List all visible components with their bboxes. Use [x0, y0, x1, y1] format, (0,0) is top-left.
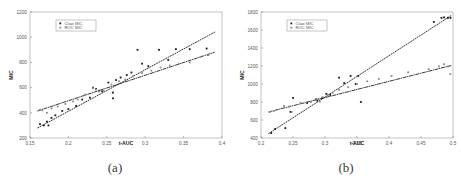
legend-marker	[290, 23, 292, 25]
y-tick-label: 1800	[248, 10, 259, 15]
panel-caption-a: (a)	[0, 160, 230, 176]
data-point	[343, 82, 345, 84]
data-point	[101, 90, 103, 92]
data-point	[141, 63, 143, 65]
x-tick-label: 0.15	[26, 141, 35, 146]
data-point	[51, 107, 53, 109]
data-point	[167, 59, 169, 61]
data-point	[407, 71, 409, 73]
data-point	[147, 65, 149, 67]
data-point	[46, 112, 48, 114]
data-point	[68, 108, 70, 110]
data-point	[350, 75, 352, 77]
data-point	[273, 110, 275, 112]
y-tick-label: 200	[19, 136, 27, 141]
data-point	[132, 75, 134, 77]
data-point	[338, 77, 340, 79]
legend-marker	[59, 23, 61, 25]
data-point	[207, 54, 209, 56]
data-point	[75, 105, 77, 107]
data-point	[360, 101, 362, 103]
figure-container: 200400600800100012000.150.20.250.30.350.…	[0, 0, 461, 184]
data-point	[103, 90, 105, 92]
data-point	[327, 94, 329, 96]
data-point	[356, 83, 358, 85]
x-tick-label: 0.4	[219, 141, 226, 146]
data-point	[98, 90, 100, 92]
data-point	[292, 97, 294, 99]
data-point	[178, 63, 180, 65]
data-point	[366, 80, 368, 82]
data-point	[92, 87, 94, 89]
data-point	[274, 128, 276, 130]
legend-marker	[290, 27, 292, 29]
legend-marker	[59, 27, 61, 29]
data-point	[57, 106, 59, 108]
data-point	[51, 117, 53, 119]
data-point	[169, 65, 171, 67]
data-point	[41, 109, 43, 111]
data-point	[443, 17, 445, 19]
data-point	[329, 94, 331, 96]
legend-label: ROC MIC	[65, 25, 83, 30]
y-tick-label: 600	[19, 85, 27, 90]
data-point	[347, 86, 349, 88]
scatter-plot-b: 400600800100012001400160018000.20.250.30…	[231, 0, 461, 160]
y-tick-label: 400	[19, 111, 27, 116]
data-point	[61, 110, 63, 112]
chart-panel-a: 200400600800100012000.150.20.250.30.350.…	[0, 0, 230, 184]
x-tick-label: 0.2	[65, 141, 72, 146]
data-point	[438, 66, 440, 68]
data-point	[46, 121, 48, 123]
data-point	[158, 49, 160, 51]
y-tick-label: 800	[250, 100, 258, 105]
x-tick-label: 0.45	[417, 141, 426, 146]
data-point	[332, 92, 334, 94]
data-point	[322, 96, 324, 98]
data-point	[450, 17, 452, 19]
data-point	[450, 73, 452, 75]
data-point	[447, 17, 449, 19]
data-point	[111, 84, 113, 86]
data-point	[137, 49, 139, 51]
y-tick-label: 1200	[17, 10, 28, 15]
data-point	[72, 101, 74, 103]
data-point	[391, 75, 393, 77]
y-tick-label: 400	[250, 136, 258, 141]
chart-panel-b: 400600800100012001400160018000.20.250.30…	[231, 0, 461, 184]
data-point	[310, 101, 312, 103]
x-tick-label: 0.5	[450, 141, 457, 146]
x-axis-title: t-AUC	[350, 140, 365, 146]
data-point	[200, 56, 202, 58]
y-tick-label: 600	[250, 118, 258, 123]
data-point	[54, 114, 56, 116]
y-tick-label: 1600	[248, 28, 259, 33]
data-point	[43, 125, 45, 127]
data-point	[378, 78, 380, 80]
legend-label: ROC MIC	[296, 25, 314, 30]
data-point	[318, 98, 320, 100]
data-point	[433, 21, 435, 23]
data-point	[206, 48, 208, 50]
y-tick-label: 800	[19, 60, 27, 65]
data-point	[115, 79, 117, 81]
data-point	[441, 17, 443, 19]
data-point	[84, 94, 86, 96]
y-tick-label: 1400	[248, 46, 259, 51]
data-point	[150, 70, 152, 72]
x-tick-label: 0.35	[179, 141, 188, 146]
data-point	[189, 62, 191, 64]
y-tick-label: 1000	[17, 35, 28, 40]
data-point	[357, 75, 359, 77]
data-point	[120, 77, 122, 79]
data-point	[447, 66, 449, 68]
y-tick-label: 1200	[248, 64, 259, 69]
data-point	[189, 48, 191, 50]
data-point	[283, 105, 285, 107]
data-point	[130, 72, 132, 74]
x-tick-label: 0.3	[322, 141, 329, 146]
chart-legend: Claw MICROC MIC	[56, 20, 96, 31]
data-point	[270, 132, 272, 134]
data-point	[443, 63, 445, 65]
data-point	[107, 82, 109, 84]
